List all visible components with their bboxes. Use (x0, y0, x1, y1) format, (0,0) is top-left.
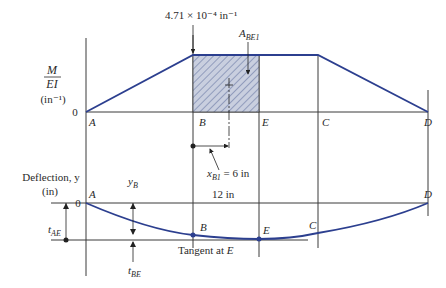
deflection-axis-label: Deflection, y (22, 171, 80, 183)
mei-unit: (in⁻¹) (40, 93, 66, 106)
upper-point-c: C (322, 116, 330, 128)
lower-point-b: B (200, 221, 207, 233)
point-e-dot (257, 237, 262, 242)
lower-point-d: D (423, 188, 432, 200)
deflection-axis-unit: (in) (42, 185, 58, 198)
mei-numerator: M (46, 63, 58, 77)
upper-point-b: B (199, 116, 206, 128)
upper-zero-label: 0 (72, 106, 78, 118)
yb-arrow-up (130, 203, 136, 209)
hatched-area-be1 (193, 55, 259, 112)
lower-plot: yB tBE tAE Deflection, y (in) 0 12 in Ta… (22, 171, 432, 279)
lower-point-a: A (88, 188, 96, 200)
tbe-label: tBE (128, 264, 141, 279)
lower-point-e: E (262, 224, 270, 236)
tae-label: tAE (48, 223, 61, 238)
tae-dot (64, 238, 69, 243)
upper-plot: 4.71 × 10⁻⁴ in⁻¹ ABE1 xB1 = 6 in M EI (i… (40, 9, 432, 276)
lower-point-c: C (309, 219, 317, 231)
beam-moment-area-diagram: 4.71 × 10⁻⁴ in⁻¹ ABE1 xB1 = 6 in M EI (i… (0, 0, 446, 288)
peak-value-label: 4.71 × 10⁻⁴ in⁻¹ (165, 9, 237, 21)
upper-point-a: A (88, 116, 96, 128)
tangent-label: Tangent at E (178, 244, 234, 256)
tae-arrow-up (63, 203, 69, 209)
lower-zero-label: 0 (75, 197, 81, 209)
span-label: 12 in (212, 188, 235, 200)
deflection-curve (86, 203, 428, 239)
upper-point-d: D (423, 116, 432, 128)
tbe-arrow-up (130, 241, 136, 247)
centroid-label: xB1 = 6 in (206, 167, 250, 182)
point-b-dot (191, 233, 196, 238)
yb-arrow-down (130, 229, 136, 235)
upper-point-e: E (261, 116, 269, 128)
yb-label: yB (127, 175, 138, 190)
area-label: ABE1 (238, 27, 260, 42)
mei-denominator: EI (45, 77, 58, 91)
